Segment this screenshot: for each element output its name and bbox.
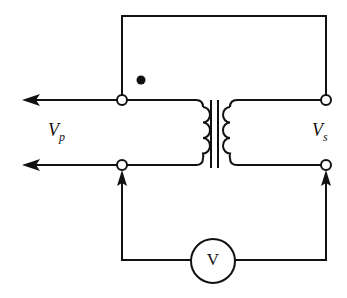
vs-sub: s — [323, 130, 328, 144]
vs-main: V — [312, 120, 323, 140]
transformer-diagram — [0, 0, 347, 298]
secondary-bottom-wire — [230, 158, 321, 165]
voltmeter-wire-left — [122, 178, 191, 260]
primary-bottom-wire — [127, 158, 203, 165]
terminal-primary-bottom — [117, 160, 127, 170]
terminal-secondary-top — [321, 95, 331, 105]
vs-label: Vs — [312, 120, 328, 145]
polarity-dot-icon — [137, 76, 146, 85]
terminal-primary-top — [117, 95, 127, 105]
vp-label: Vp — [48, 120, 65, 145]
vp-sub: p — [59, 130, 65, 144]
terminal-secondary-bottom — [321, 160, 331, 170]
primary-coil — [203, 107, 210, 158]
secondary-top-wire — [230, 100, 321, 107]
voltmeter-wire-right — [235, 178, 326, 260]
primary-top-wire — [127, 100, 203, 107]
voltmeter-label: V — [191, 250, 235, 270]
secondary-coil — [223, 107, 230, 158]
jumper-wire — [122, 16, 326, 96]
vp-main: V — [48, 120, 59, 140]
